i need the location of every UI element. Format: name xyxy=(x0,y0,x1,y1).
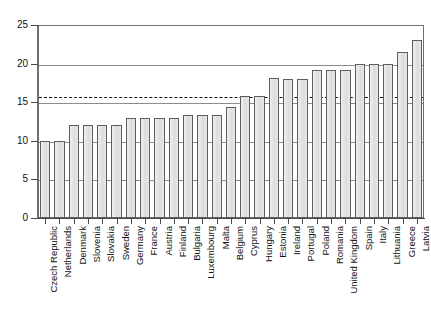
x-tick xyxy=(202,219,203,224)
x-axis-label-wrap: Latvia xyxy=(421,201,431,226)
x-tick xyxy=(260,219,261,224)
x-axis-label: Spain xyxy=(364,226,374,250)
x-tick xyxy=(145,219,146,224)
x-axis-label-wrap: Estonia xyxy=(278,194,288,226)
x-tick xyxy=(188,219,189,224)
x-axis-label-wrap: Italy xyxy=(378,209,388,226)
x-axis-label: Luxembourg xyxy=(206,226,216,279)
x-axis-label: Estonia xyxy=(278,226,288,258)
x-axis-label: Hungary xyxy=(264,226,274,262)
x-axis-label: Lithuania xyxy=(392,226,402,265)
y-tick-0 xyxy=(31,218,38,219)
x-axis-label: Malta xyxy=(221,226,231,249)
x-axis-label: Belgium xyxy=(235,226,245,260)
y-tick-5 xyxy=(31,179,38,180)
x-tick xyxy=(45,219,46,224)
x-tick xyxy=(388,219,389,224)
x-axis-label: Denmark xyxy=(78,226,88,265)
x-axis-label-wrap: Belgium xyxy=(235,192,245,226)
x-axis-label: Slovenia xyxy=(92,226,102,262)
x-tick xyxy=(245,219,246,224)
y-tick-25 xyxy=(31,25,38,26)
x-axis-label: Latvia xyxy=(421,226,431,251)
x-axis-label-wrap: Romania xyxy=(335,188,345,226)
x-axis-label: Italy xyxy=(378,226,388,243)
x-axis-label-wrap: Sweden xyxy=(121,192,131,226)
y-tick-10 xyxy=(31,141,38,142)
x-tick xyxy=(288,219,289,224)
x-tick xyxy=(345,219,346,224)
x-axis-label-wrap: Germany xyxy=(135,187,145,226)
x-axis-label: Slovakia xyxy=(106,226,116,262)
x-axis-label-wrap: Netherlands xyxy=(63,175,73,226)
x-tick xyxy=(417,219,418,224)
x-tick xyxy=(331,219,332,224)
y-axis-label-0: 0 xyxy=(4,213,28,223)
x-tick xyxy=(374,219,375,224)
x-tick xyxy=(131,219,132,224)
x-tick xyxy=(217,219,218,224)
y-axis-label-5: 5 xyxy=(4,174,28,184)
x-tick xyxy=(117,219,118,224)
y-axis-label-25: 25 xyxy=(4,20,28,30)
x-axis-label-wrap: Cyprus xyxy=(249,196,259,226)
x-tick xyxy=(360,219,361,224)
x-axis-label-wrap: France xyxy=(149,196,159,226)
x-tick xyxy=(174,219,175,224)
x-axis-label-wrap: United Kingdom xyxy=(349,158,359,226)
x-axis-label-wrap: Ireland xyxy=(292,197,302,226)
x-axis-label: Finland xyxy=(178,226,188,257)
x-axis-label: France xyxy=(149,226,159,256)
bar xyxy=(412,40,422,218)
y-tick-15 xyxy=(31,102,38,103)
x-tick xyxy=(403,219,404,224)
x-axis-label: Netherlands xyxy=(63,226,73,277)
x-tick xyxy=(59,219,60,224)
x-axis-label-wrap: Lithuania xyxy=(392,187,402,226)
x-tick xyxy=(160,219,161,224)
y-tick-20 xyxy=(31,64,38,65)
x-axis-label-wrap: Czech Republic xyxy=(49,159,59,226)
x-tick xyxy=(274,219,275,224)
x-axis-label: Romania xyxy=(335,226,345,264)
y-axis-label-20: 20 xyxy=(4,59,28,69)
x-axis-label-wrap: Poland xyxy=(321,196,331,226)
x-axis-label-wrap: Portugal xyxy=(306,191,316,226)
y-axis-label-10: 10 xyxy=(4,136,28,146)
x-tick xyxy=(231,219,232,224)
bar xyxy=(369,64,379,218)
x-axis-label-wrap: Slovenia xyxy=(92,190,102,226)
y-axis-label-15: 15 xyxy=(4,97,28,107)
x-axis-label: Greece xyxy=(407,226,417,257)
x-tick xyxy=(302,219,303,224)
x-axis-label: Austria xyxy=(164,226,174,256)
x-axis-label: Ireland xyxy=(292,226,302,255)
x-axis-label-wrap: Austria xyxy=(164,196,174,226)
x-axis-label-wrap: Denmark xyxy=(78,187,88,226)
x-tick xyxy=(88,219,89,224)
x-axis-label-wrap: Malta xyxy=(221,203,231,226)
x-axis-label: Cyprus xyxy=(249,226,259,256)
x-axis-label: United Kingdom xyxy=(349,226,359,294)
x-axis-label-wrap: Spain xyxy=(364,202,374,226)
x-axis-label-wrap: Finland xyxy=(178,195,188,226)
x-axis-label-wrap: Luxembourg xyxy=(206,173,216,226)
x-tick xyxy=(74,219,75,224)
x-axis-label: Sweden xyxy=(121,226,131,260)
bar-chart: 0510152025 Czech RepublicNetherlandsDenm… xyxy=(0,0,431,322)
x-axis-label-wrap: Hungary xyxy=(264,190,274,226)
x-tick xyxy=(317,219,318,224)
x-axis-label-wrap: Greece xyxy=(407,195,417,226)
x-axis-label: Poland xyxy=(321,226,331,256)
x-axis-label-wrap: Bulgaria xyxy=(192,191,202,226)
x-tick xyxy=(102,219,103,224)
x-axis-label: Germany xyxy=(135,226,145,265)
x-axis-label: Czech Republic xyxy=(49,226,59,293)
x-axis-label-wrap: Slovakia xyxy=(106,190,116,226)
x-axis-label: Portugal xyxy=(306,226,316,261)
x-axis-label: Bulgaria xyxy=(192,226,202,261)
